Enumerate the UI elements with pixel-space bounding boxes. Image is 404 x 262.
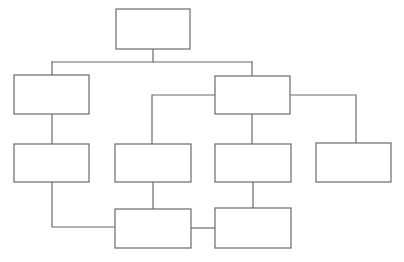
node-box-2[interactable]: [14, 75, 89, 114]
connectors-layer: [52, 49, 356, 228]
diagram-node-9[interactable]: [215, 208, 291, 248]
diagram-node-1[interactable]: [116, 9, 190, 49]
node-box-5[interactable]: [115, 144, 191, 182]
node-box-1[interactable]: [116, 9, 190, 49]
connector-conn-node4-to-node8: [52, 182, 115, 227]
node-box-9[interactable]: [215, 208, 291, 248]
connector-conn-node3-left-branch: [152, 95, 215, 144]
node-box-8[interactable]: [115, 209, 191, 248]
node-box-3[interactable]: [215, 76, 290, 114]
connector-conn-node3-right-branch: [290, 95, 356, 143]
diagram-node-4[interactable]: [14, 144, 89, 182]
node-box-6[interactable]: [215, 144, 291, 182]
diagram-node-5[interactable]: [115, 144, 191, 182]
diagram-canvas: [0, 0, 404, 262]
node-box-4[interactable]: [14, 144, 89, 182]
diagram-node-6[interactable]: [215, 144, 291, 182]
diagram-node-7[interactable]: [316, 143, 391, 182]
diagram-node-3[interactable]: [215, 76, 290, 114]
diagram-node-2[interactable]: [14, 75, 89, 114]
diagram-node-8[interactable]: [115, 209, 191, 248]
nodes-layer: [14, 9, 391, 248]
node-box-7[interactable]: [316, 143, 391, 182]
flowchart-svg: [0, 0, 404, 262]
